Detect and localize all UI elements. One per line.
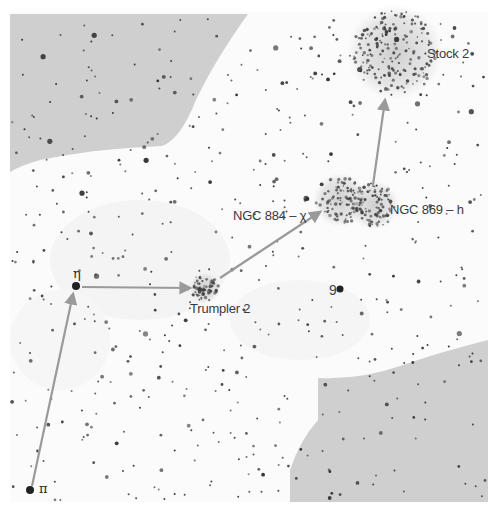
star [454,163,456,165]
cluster-star [198,290,202,294]
star [249,49,252,52]
cluster-star [335,213,339,217]
cluster-star [324,211,326,213]
cluster-star [380,209,383,212]
cluster-star [386,187,390,191]
star [184,494,186,496]
star [170,221,172,223]
star [202,419,205,422]
star [298,319,300,321]
cluster-star [337,178,340,181]
star [207,366,209,368]
cluster-star [364,198,367,201]
star [256,69,258,71]
star [366,191,368,193]
star [43,460,45,462]
star [407,122,409,124]
star-chart [0,0,494,508]
cluster-star [380,21,384,25]
star [141,212,144,215]
star [248,245,252,249]
star [281,81,285,85]
cluster-star [372,195,374,197]
cluster-star [416,15,419,18]
star [238,458,240,460]
cluster-star [345,203,347,205]
cluster-star [400,13,403,16]
star [285,81,288,84]
star [311,299,313,301]
star [92,461,95,464]
star [352,114,354,116]
star [80,95,84,99]
star [104,320,108,324]
star [115,441,119,445]
star [24,128,26,130]
star [338,59,342,63]
star [415,437,417,439]
cluster-star [421,32,423,34]
star [265,133,267,135]
star [49,101,51,103]
star [215,231,218,234]
star [117,257,120,260]
star [227,102,229,104]
cluster-star [368,67,369,68]
star [88,66,90,68]
star [212,98,216,102]
cluster-star [213,278,216,281]
star [162,75,166,79]
star [129,355,132,358]
star [278,323,281,326]
cluster-star [350,219,353,222]
label-pi: π [39,481,47,496]
star [115,345,118,348]
star [442,74,444,76]
star [194,171,196,173]
cluster-star [332,196,334,198]
cluster-star [381,33,383,35]
cluster-star [330,203,332,205]
cluster-star [326,207,328,209]
star [456,154,458,156]
cluster-star [363,79,365,81]
cluster-star [348,177,352,181]
star [272,251,274,253]
star [279,422,281,424]
star [354,192,356,194]
star [41,54,46,59]
star [230,432,232,434]
star [59,499,61,501]
star [349,100,353,104]
star [144,158,149,163]
cluster-star [399,53,401,55]
star [392,275,395,278]
star [32,260,35,263]
star [179,19,181,21]
star [43,299,45,301]
cluster-star [417,36,419,38]
star [358,101,362,105]
star [427,344,429,346]
star [119,163,121,165]
cluster-star [362,54,364,56]
nine-star [337,286,344,293]
cluster-star [380,203,383,206]
cluster-star [403,87,405,89]
eta-star [72,282,80,290]
cluster-star [381,50,384,53]
star [389,30,391,32]
star [30,465,32,467]
star [84,135,86,137]
star [94,351,97,354]
cluster-star [384,13,386,15]
cluster-star [368,49,371,52]
cluster-star [197,282,200,285]
cluster-star [366,54,368,56]
cluster-star [391,10,393,12]
star [221,383,224,386]
star [317,55,320,58]
cluster-star [428,64,431,67]
star [160,468,164,472]
star [268,334,270,336]
